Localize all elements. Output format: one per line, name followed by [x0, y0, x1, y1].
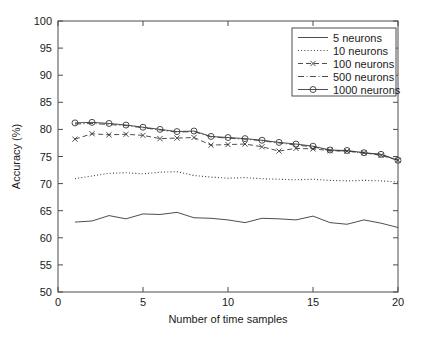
y-tick-label: 70 — [40, 178, 52, 190]
y-tick-label: 55 — [40, 259, 52, 271]
y-tick-label: 95 — [40, 42, 52, 54]
y-tick-label: 60 — [40, 232, 52, 244]
y-axis-title: Accuracy (%) — [10, 124, 22, 189]
series-100-neurons — [72, 131, 400, 163]
series-10-neurons — [75, 172, 398, 182]
line-chart: 5055606570758085909510005101520 5 neuron… — [0, 0, 429, 343]
legend-label: 500 neurons — [333, 71, 395, 83]
y-tick-label: 80 — [40, 123, 52, 135]
y-tick-label: 90 — [40, 69, 52, 81]
y-tick-label: 50 — [40, 286, 52, 298]
x-tick-label: 5 — [140, 296, 146, 308]
series-path — [75, 123, 398, 160]
series-1000-neurons — [72, 119, 401, 163]
x-tick-label: 20 — [392, 296, 404, 308]
legend-label: 1000 neurons — [333, 84, 401, 96]
chart-figure: 5055606570758085909510005101520 5 neuron… — [0, 0, 429, 343]
y-tick-label: 75 — [40, 151, 52, 163]
data-series — [72, 119, 401, 227]
x-tick-label: 15 — [307, 296, 319, 308]
y-tick-label: 65 — [40, 205, 52, 217]
legend-label: 5 neurons — [333, 32, 382, 44]
series-path — [75, 172, 398, 182]
data-point-marker — [72, 137, 77, 142]
x-axis-title: Number of time samples — [168, 313, 288, 325]
legend-label: 100 neurons — [333, 58, 395, 70]
series-path — [75, 122, 398, 160]
legend-label: 10 neurons — [333, 45, 389, 57]
y-tick-label: 100 — [34, 15, 52, 27]
series-path — [75, 212, 398, 227]
y-tick-label: 85 — [40, 96, 52, 108]
x-tick-label: 10 — [222, 296, 234, 308]
series-500-neurons — [75, 123, 398, 160]
x-tick-label: 0 — [55, 296, 61, 308]
chart-legend: 5 neurons10 neurons100 neurons500 neuron… — [292, 28, 401, 96]
series-5-neurons — [75, 212, 398, 227]
data-point-marker — [191, 135, 196, 140]
